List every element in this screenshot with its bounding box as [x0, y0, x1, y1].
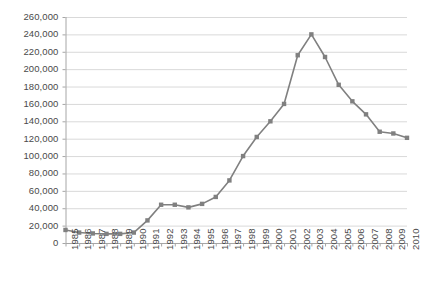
x-axis-tick-label: 1992 [165, 228, 175, 250]
data-point-marker [350, 99, 354, 103]
data-point-marker [391, 131, 395, 135]
data-point-marker [63, 228, 67, 232]
y-axis-tick-label: 260,000 [23, 12, 58, 22]
data-point-marker [323, 55, 327, 59]
y-axis-tick-label: 240,000 [23, 29, 58, 39]
y-axis-tick-label: 100,000 [23, 151, 58, 161]
data-point-marker [337, 83, 341, 87]
data-point-marker [405, 136, 409, 140]
x-axis-tick-label: 1988 [110, 228, 120, 250]
x-axis-tick-label: 2010 [411, 228, 421, 250]
y-axis-tick-label: 220,000 [23, 47, 58, 57]
x-axis-tick-label: 2001 [288, 228, 298, 250]
x-axis-tick-label: 2005 [343, 228, 353, 250]
x-axis-tick-label: 1993 [179, 228, 189, 250]
series-line [66, 34, 408, 233]
data-point-marker [377, 130, 381, 134]
chart-plot-area [0, 0, 421, 295]
x-axis-tick-label: 1994 [192, 228, 202, 250]
data-point-marker [214, 195, 218, 199]
x-axis-tick-label: 2002 [302, 228, 312, 250]
data-point-marker [186, 205, 190, 209]
data-point-marker [268, 119, 272, 123]
x-axis-tick-label: 1999 [261, 228, 271, 250]
data-point-marker [159, 203, 163, 207]
x-axis-tick-label: 1996 [220, 228, 230, 250]
y-axis-tick-label: 140,000 [23, 116, 58, 126]
data-point-marker [282, 102, 286, 106]
data-point-marker [145, 218, 149, 222]
data-point-marker [296, 53, 300, 57]
x-axis-tick-label: 1987 [97, 228, 107, 250]
x-axis-tick-label: 1991 [151, 228, 161, 250]
series-markers [63, 32, 409, 236]
data-point-marker [364, 112, 368, 116]
x-axis-tick-label: 1998 [247, 228, 257, 250]
line-chart: 020,00040,00060,00080,000100,000120,0001… [0, 0, 421, 295]
data-point-marker [227, 178, 231, 182]
x-axis-tick-label: 1997 [233, 228, 243, 250]
data-point-marker [241, 154, 245, 158]
data-point-marker [255, 135, 259, 139]
y-axis-tick-label: 160,000 [23, 99, 58, 109]
y-axis-tick-label: 120,000 [23, 134, 58, 144]
y-axis-tick-label: 180,000 [23, 82, 58, 92]
x-axis-tick-label: 1985 [70, 228, 80, 250]
x-axis-tick-label: 2003 [315, 228, 325, 250]
gridlines [66, 18, 408, 244]
y-axis-tick-label: 40,000 [29, 203, 59, 213]
x-axis-tick-label: 2007 [370, 228, 380, 250]
x-axis-tick-label: 1986 [83, 228, 93, 250]
y-axis-tick-label: 200,000 [23, 64, 58, 74]
data-point-marker [200, 202, 204, 206]
y-axis-tick-label: 60,000 [29, 186, 59, 196]
x-axis-tick-label: 2009 [397, 228, 407, 250]
data-point-marker [309, 32, 313, 36]
y-axis-tick-label: 20,000 [29, 221, 59, 231]
y-tick-marks [63, 18, 66, 244]
data-point-marker [173, 203, 177, 207]
x-axis-tick-label: 1990 [138, 228, 148, 250]
x-axis-tick-label: 2006 [356, 228, 366, 250]
x-axis-tick-label: 1995 [206, 228, 216, 250]
x-axis-tick-label: 2004 [329, 228, 339, 250]
y-axis-tick-label: 80,000 [29, 168, 59, 178]
x-axis-tick-label: 2000 [274, 228, 284, 250]
x-axis-tick-label: 1989 [124, 228, 134, 250]
y-axis-tick-label: 0 [53, 238, 58, 248]
x-axis-tick-label: 2008 [384, 228, 394, 250]
